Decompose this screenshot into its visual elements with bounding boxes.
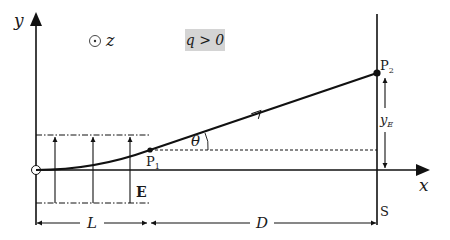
deflection-diagram: y x z q > 0 E P1 θ S P2 [0, 0, 450, 240]
trajectory-straight [150, 73, 377, 150]
angle-label: θ [191, 132, 200, 150]
z-axis-label: z [105, 31, 115, 50]
point-p1-label: P1 [146, 154, 160, 171]
dimension-D-label: D [255, 214, 268, 232]
z-axis-out-of-page-icon [90, 36, 101, 47]
deflection-label: yE [379, 112, 393, 129]
charge-condition-label: q > 0 [186, 32, 225, 48]
y-axis-label: y [13, 10, 24, 30]
point-p2-label: P2 [380, 58, 394, 75]
screen-label: S [380, 204, 389, 219]
y-axis [30, 12, 42, 225]
angle-arc-icon [205, 133, 208, 150]
electric-field-label: E [136, 184, 147, 200]
x-axis-label: x [419, 175, 429, 195]
y-axis-arrow-icon [30, 12, 42, 26]
dimension-L-label: L [86, 214, 97, 232]
